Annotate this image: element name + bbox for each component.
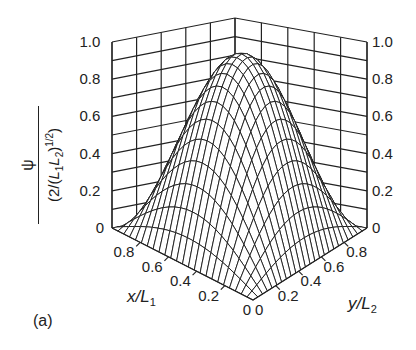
z-axis-label: ψ (2/(L1L2)1/2) xyxy=(18,100,62,230)
z-tick-label-right: 0 xyxy=(372,220,380,235)
y-axis-var: y xyxy=(348,294,357,313)
y-axis-L: L xyxy=(361,294,370,313)
panel-label: (a) xyxy=(33,312,53,330)
z-tick-label-left: 0.4 xyxy=(79,146,100,161)
z-tick-label-right: 0.2 xyxy=(372,183,393,198)
y-tick-label: 0.8 xyxy=(346,244,367,259)
x-axis-sub: 1 xyxy=(150,296,156,308)
x-tick-label: 0.8 xyxy=(114,244,135,259)
x-tick-label: 0.4 xyxy=(170,273,191,288)
x-tick-label: 0 xyxy=(243,302,251,317)
x-tick-label: 0.6 xyxy=(142,259,163,274)
z-label-denominator: (2/(L1L2)1/2) xyxy=(39,100,61,230)
x-axis-L: L xyxy=(140,287,149,306)
wall-gridline-z xyxy=(112,18,367,42)
z-tick-label-right: 1.0 xyxy=(372,34,393,49)
y-tick-label: 0 xyxy=(255,302,263,317)
z-label-numerator: ψ xyxy=(18,100,38,230)
x-tick-label: 0.2 xyxy=(198,288,219,303)
z-tick-label-right: 0.6 xyxy=(372,108,393,123)
z-tick-label-left: 1.0 xyxy=(79,34,100,49)
x-tick xyxy=(136,242,140,246)
x-axis-var: x xyxy=(127,287,136,306)
z-tick-label-right: 0.4 xyxy=(372,146,393,161)
y-tick-label: 0.4 xyxy=(301,273,322,288)
x-tick xyxy=(164,257,168,261)
z-tick-label-left: 0.2 xyxy=(79,183,100,198)
y-axis-label: y/L2 xyxy=(348,294,377,315)
x-tick xyxy=(221,286,225,290)
x-tick xyxy=(193,271,197,275)
y-axis-sub: 2 xyxy=(371,303,377,315)
z-tick-label-left: 0.8 xyxy=(79,71,100,86)
z-tick-label-left: 0.6 xyxy=(79,108,100,123)
z-tick-label-left: 0 xyxy=(96,220,104,235)
y-tick-label: 0.2 xyxy=(278,288,299,303)
y-tick-label: 0.6 xyxy=(323,259,344,274)
z-tick-label-right: 0.8 xyxy=(372,71,393,86)
x-axis-label: x/L1 xyxy=(127,287,156,308)
